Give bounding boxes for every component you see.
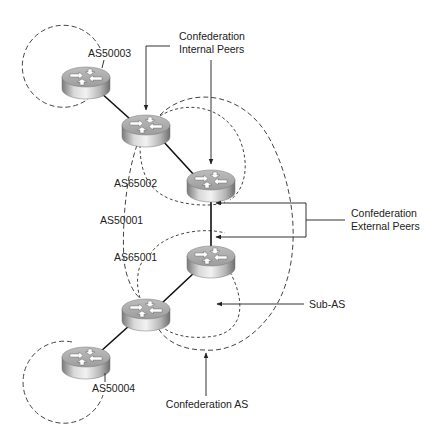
sub-as-label: Sub-AS bbox=[309, 298, 345, 310]
external-peers-callout: Confederation External Peers bbox=[216, 203, 420, 237]
as50003-label: AS50003 bbox=[88, 47, 131, 59]
internal-peers-label-line1: Confederation bbox=[179, 30, 245, 42]
as65001-label: AS65001 bbox=[114, 251, 157, 263]
external-peers-label-line2: External Peers bbox=[351, 220, 420, 232]
router-r1[interactable] bbox=[62, 67, 110, 99]
router-r3[interactable] bbox=[187, 170, 235, 202]
internal-peers-label-line2: Internal Peers bbox=[179, 43, 244, 55]
router-r4[interactable] bbox=[187, 246, 235, 278]
confederation-as-label: Confederation AS bbox=[166, 398, 248, 410]
as50004-label: AS50004 bbox=[92, 382, 135, 394]
as50001-label: AS50001 bbox=[100, 214, 143, 226]
router-r2[interactable] bbox=[122, 115, 170, 147]
router-r5[interactable] bbox=[122, 299, 170, 331]
confederation-as-callout: Confederation AS bbox=[166, 353, 248, 410]
external-peers-label-line1: Confederation bbox=[351, 207, 417, 219]
router-r6[interactable] bbox=[62, 347, 110, 379]
bgp-confederation-diagram: Confederation Internal Peers Confederati… bbox=[0, 0, 437, 439]
sub-as-callout: Sub-AS bbox=[217, 298, 345, 310]
as65002-label: AS65002 bbox=[114, 177, 157, 189]
